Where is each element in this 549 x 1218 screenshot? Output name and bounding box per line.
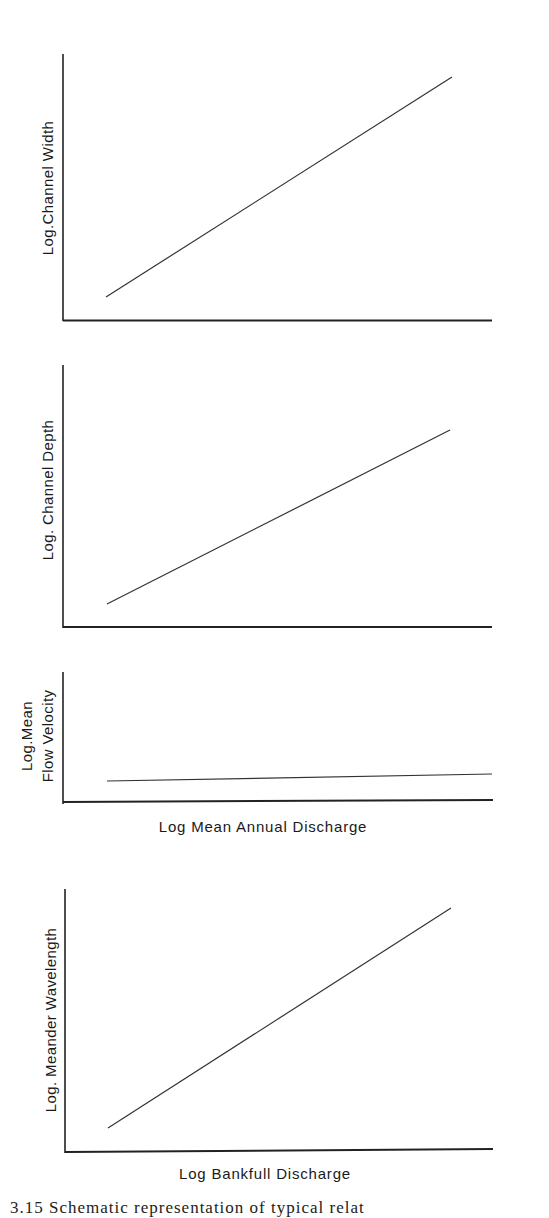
x-axis <box>65 1149 493 1152</box>
panel-channel-width: Log.Channel Width <box>39 54 492 321</box>
x-axis-label: Log Bankfull Discharge <box>179 1165 351 1182</box>
panel-flow-velocity: Log.Mean Flow Velocity Log Mean Annual D… <box>18 672 493 835</box>
y-axis-label-line2: Flow Velocity <box>39 690 56 783</box>
y-axis-label-line1: Log.Mean <box>18 701 35 771</box>
trend-line <box>108 908 451 1128</box>
trend-line <box>106 77 452 297</box>
x-axis <box>63 800 493 802</box>
x-axis-label: Log Mean Annual Discharge <box>159 818 367 835</box>
panel-meander-wavelength: Log. Meander Wavelength Log Bankfull Dis… <box>42 889 493 1182</box>
panel-channel-depth: Log. Channel Depth <box>39 365 492 628</box>
y-axis-label: Log.Channel Width <box>39 121 56 255</box>
y-axis-label: Log. Channel Depth <box>39 420 56 561</box>
trend-line <box>107 774 492 781</box>
y-axis-label: Log. Meander Wavelength <box>42 928 59 1113</box>
trend-line <box>107 430 450 604</box>
figure-caption: 3.15 Schematic representation of typical… <box>10 1198 365 1218</box>
